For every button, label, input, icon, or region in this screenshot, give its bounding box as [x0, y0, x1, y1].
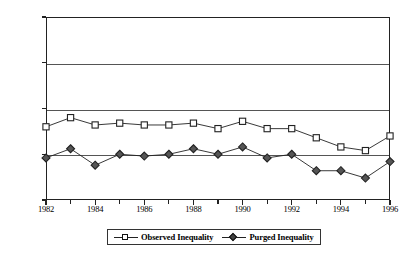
y-tick-mark [42, 108, 46, 109]
gridline [47, 155, 389, 156]
square-marker-icon [114, 232, 138, 242]
x-tick-mark-minor [119, 200, 120, 204]
x-tick-mark-minor [217, 200, 218, 204]
gridline [47, 64, 389, 65]
legend-item-purged-inequality: Purged Inequality [222, 232, 313, 242]
x-tick-label: 1982 [26, 205, 66, 214]
x-tick-label: 1990 [223, 205, 263, 214]
x-tick-label: 1996 [370, 205, 410, 214]
legend-label-purged-inequality: Purged Inequality [249, 232, 313, 242]
x-tick-mark-minor [267, 200, 268, 204]
x-tick-mark-minor [365, 200, 366, 204]
x-tick-label: 1986 [124, 205, 164, 214]
x-tick-mark-minor [316, 200, 317, 204]
diamond-marker-icon [222, 232, 246, 242]
x-tick-label: 1994 [321, 205, 361, 214]
plot-area [46, 17, 390, 200]
inequality-line-chart: 0.000.250.500.751.00 1982198419861988199… [0, 0, 418, 258]
y-tick-mark [42, 62, 46, 63]
x-tick-mark-minor [168, 200, 169, 204]
x-tick-label: 1984 [75, 205, 115, 214]
chart-legend: Observed Inequality Purged Inequality [107, 229, 321, 245]
x-tick-label: 1988 [173, 205, 213, 214]
y-tick-mark [42, 154, 46, 155]
legend-label-observed-inequality: Observed Inequality [141, 232, 213, 242]
x-tick-mark-minor [70, 200, 71, 204]
legend-item-observed-inequality: Observed Inequality [114, 232, 213, 242]
y-tick-mark [42, 16, 46, 17]
x-tick-label: 1992 [272, 205, 312, 214]
gridline [47, 110, 389, 111]
